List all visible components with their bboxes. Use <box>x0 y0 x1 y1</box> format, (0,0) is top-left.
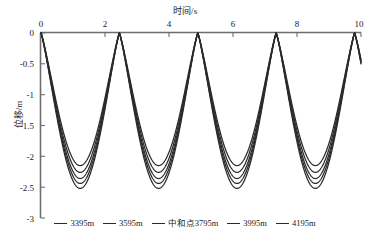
legend-line-icon <box>276 223 289 224</box>
y-tick-label: -2 <box>27 152 35 162</box>
legend-line-icon <box>227 223 240 224</box>
series-line <box>41 33 361 166</box>
legend-item[interactable]: 4195m <box>276 219 316 228</box>
axis-lines <box>40 33 361 219</box>
x-tick-label: 8 <box>295 19 300 29</box>
x-tick-label: 6 <box>231 19 236 29</box>
legend-label: 中和点3795m <box>168 219 219 228</box>
series-line <box>41 33 361 172</box>
x-tick-label: 10 <box>355 19 365 29</box>
legend-item[interactable]: 3995m <box>227 219 267 228</box>
y-axis-label: 位移/m <box>12 85 25 145</box>
legend-line-icon <box>152 223 165 224</box>
legend-line-icon <box>103 223 116 224</box>
x-tick-label: 2 <box>103 19 108 29</box>
x-tick-label: 0 <box>39 19 44 29</box>
chart-legend: 3395m 3595m 中和点3795m 3995m 4195m <box>0 219 370 228</box>
y-tick-label: -1 <box>27 90 35 100</box>
legend-label: 3395m <box>70 219 94 228</box>
x-axis-tick-labels: 0 2 4 6 8 10 <box>39 19 364 29</box>
series-lines <box>41 33 361 188</box>
y-tick-label: 0 <box>30 28 35 38</box>
legend-label: 4195m <box>292 219 316 228</box>
y-tick-label: -0.5 <box>20 59 35 69</box>
x-tick-label: 4 <box>167 19 172 29</box>
legend-item[interactable]: 中和点3795m <box>152 219 219 228</box>
legend-item[interactable]: 3395m <box>54 219 94 228</box>
y-tick-label: -2.5 <box>20 183 35 193</box>
chart-figure: 时间/s 0 -0.5 -1 -1.5 -2 -2.5 -3 0 2 4 6 8… <box>0 0 370 246</box>
legend-item[interactable]: 3595m <box>103 219 143 228</box>
legend-line-icon <box>54 223 67 224</box>
legend-label: 3595m <box>119 219 143 228</box>
plot-area: 0 -0.5 -1 -1.5 -2 -2.5 -3 0 2 4 6 8 10 <box>0 0 370 246</box>
legend-label: 3995m <box>243 219 267 228</box>
